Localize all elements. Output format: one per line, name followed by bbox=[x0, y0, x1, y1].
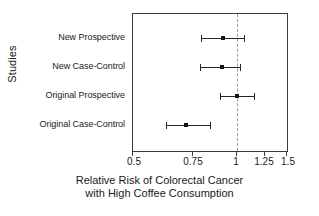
x-axis-tick-label-3: 1.25 bbox=[254, 156, 273, 167]
point-estimate-marker bbox=[235, 94, 239, 98]
ci-cap-low bbox=[220, 93, 221, 100]
ci-cap-low bbox=[200, 64, 201, 71]
y-axis-category-label-2: Original Prospective bbox=[45, 90, 125, 100]
x-axis-title-line-1: Relative Risk of Colorectal Cancer bbox=[0, 174, 319, 187]
y-axis-title: Studies bbox=[6, 28, 18, 100]
y-axis-category-label-1: New Case-Control bbox=[52, 61, 125, 71]
x-axis-tick-label-4: 1.5 bbox=[281, 156, 295, 167]
ci-cap-high bbox=[244, 35, 245, 42]
x-axis-tick-label-2: 1 bbox=[233, 156, 239, 167]
point-estimate-marker bbox=[220, 65, 224, 69]
plot-area-frame bbox=[132, 13, 288, 152]
reference-line-rr-1 bbox=[237, 14, 238, 151]
x-axis-tick-label-1: 0.75 bbox=[183, 156, 202, 167]
ci-cap-high bbox=[240, 64, 241, 71]
x-axis-tick-label-0: 0.5 bbox=[127, 156, 141, 167]
point-estimate-marker bbox=[221, 36, 225, 40]
ci-cap-low bbox=[201, 35, 202, 42]
x-axis-title: Relative Risk of Colorectal Cancer with … bbox=[0, 174, 319, 200]
x-axis-title-line-2: with High Coffee Consumption bbox=[0, 187, 319, 200]
ci-cap-low bbox=[166, 122, 167, 129]
ci-cap-high bbox=[210, 122, 211, 129]
point-estimate-marker bbox=[184, 123, 188, 127]
y-axis-category-label-0: New Prospective bbox=[58, 32, 125, 42]
y-axis-category-label-3: Original Case-Control bbox=[40, 119, 125, 129]
forest-plot-figure: Studies New Prospective New Case-Control… bbox=[0, 0, 319, 216]
ci-cap-high bbox=[254, 93, 255, 100]
